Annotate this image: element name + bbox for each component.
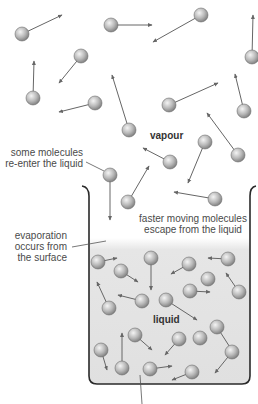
liquid-molecule [193,331,207,345]
motion-arrow-icon [169,83,218,105]
liquid-molecule [128,328,142,342]
vapour-molecule [104,18,118,32]
reenter-pointer-line [86,162,104,171]
evaporation-line-1: evaporation [15,230,67,241]
reenter-annotation: some molecules re-enter the liquid [5,147,83,169]
vapour-molecule [208,192,222,206]
vapour-molecule [15,27,29,41]
liquid-molecule [114,264,128,278]
escape-line-1: faster moving molecules [128,213,258,224]
liquid-molecule [91,255,105,269]
vapour-molecule [26,91,40,105]
liquid-molecule [225,345,239,359]
vapour-label: vapour [150,130,183,141]
liquid-molecule [232,285,246,299]
vapour-molecule [245,50,258,64]
vapour-molecule [163,155,177,169]
liquid-molecule [102,301,116,315]
liquid-molecule [115,361,129,375]
vapour-molecule [103,168,117,182]
motion-arrow-icon [112,75,129,130]
escape-line-2: escape from the liquid [128,224,258,235]
vapour-molecule [162,98,176,112]
liquid-molecule [94,343,108,357]
liquid-molecule [159,293,173,307]
liquid-molecule [185,365,199,379]
liquid-molecule [135,294,149,308]
vapour-molecule [74,49,88,63]
vapour-molecule [231,148,245,162]
escape-annotation: faster moving molecules escape from the … [128,213,258,235]
evaporation-line-2: occurs from [15,241,67,252]
liquid-molecule [172,332,186,346]
motion-arrow-icon [207,113,238,155]
reenter-line-2: re-enter the liquid [5,158,83,169]
reenter-line-1: some molecules [5,147,83,158]
vapour-molecule [122,123,136,137]
liquid-molecule [183,284,197,298]
vapour-molecule [237,104,251,118]
liquid-molecule [144,251,158,265]
motion-arrow-icon [153,15,201,42]
liquid-label: liquid [153,314,180,325]
liquid-molecule [221,252,235,266]
evaporation-annotation: evaporation occurs from the surface [15,230,67,263]
vapour-molecule [198,135,212,149]
liquid-molecule [210,320,224,334]
evaporation-diagram [0,0,258,404]
liquid-molecule [182,257,196,271]
vapour-molecule [194,8,208,22]
evaporation-line-3: the surface [15,252,67,263]
liquid-molecule [201,272,215,286]
vapour-molecule [121,195,135,209]
vapour-molecule [88,96,102,110]
liquid-molecule [143,362,157,376]
